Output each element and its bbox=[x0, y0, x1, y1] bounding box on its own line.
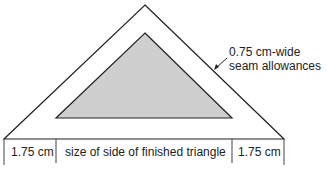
annotation-line-2: seam allowances bbox=[229, 59, 321, 73]
dimension-left-label: 1.75 cm bbox=[11, 145, 54, 159]
dimension-center-label: size of side of finished triangle bbox=[65, 145, 226, 159]
annotation-line-1: 0.75 cm-wide bbox=[229, 45, 300, 59]
dimension-right-label: 1.75 cm bbox=[238, 145, 281, 159]
arrow-head-icon bbox=[214, 64, 219, 70]
